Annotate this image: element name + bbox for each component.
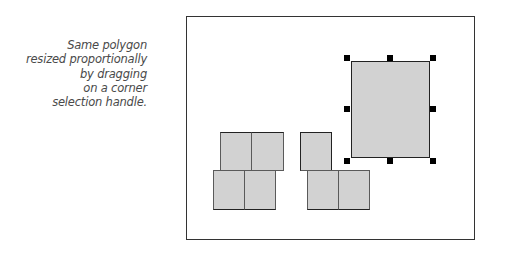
middle-polygon-cell[interactable] <box>300 132 332 171</box>
drawing-canvas[interactable] <box>186 16 475 240</box>
caption-line-5: selection handle. <box>0 95 147 109</box>
handle-bottom-center[interactable] <box>387 158 393 164</box>
caption: Same polygon resized proportionally by d… <box>0 38 147 109</box>
left-polygon-cell[interactable] <box>251 132 284 171</box>
handle-bottom-right[interactable] <box>430 158 436 164</box>
caption-line-2: resized proportionally <box>0 52 147 66</box>
middle-polygon-cell[interactable] <box>338 170 370 210</box>
left-polygon-cell[interactable] <box>220 132 252 171</box>
middle-polygon-cell[interactable] <box>307 170 339 210</box>
handle-middle-right[interactable] <box>430 106 436 112</box>
handle-top-right[interactable] <box>430 55 436 61</box>
selected-polygon[interactable] <box>351 61 430 158</box>
left-polygon-cell[interactable] <box>213 170 245 210</box>
handle-top-left[interactable] <box>344 55 350 61</box>
handle-middle-left[interactable] <box>344 106 350 112</box>
caption-line-1: Same polygon <box>0 38 147 52</box>
handle-top-center[interactable] <box>387 55 393 61</box>
caption-line-4: on a corner <box>0 81 147 95</box>
handle-bottom-left[interactable] <box>344 158 350 164</box>
left-polygon-cell[interactable] <box>244 170 276 210</box>
caption-line-3: by dragging <box>0 67 147 81</box>
